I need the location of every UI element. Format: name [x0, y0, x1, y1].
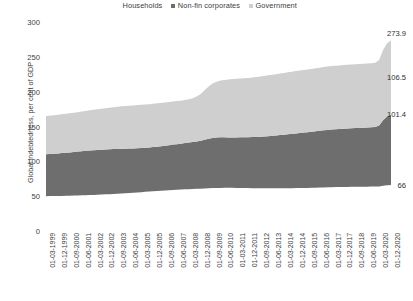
legend-swatch-government	[249, 4, 253, 8]
x-tick-01-03-2017: 01-03-2017	[335, 233, 342, 268]
x-tick-01-12-2014: 01-12-2014	[299, 233, 306, 268]
x-tick-01-09-2006: 01-09-2006	[168, 233, 175, 268]
x-tick-01-03-2005: 01-03-2005	[144, 233, 151, 268]
x-tick-01-03-2011: 01-03-2011	[239, 233, 246, 267]
callout-total: 273.9	[0, 29, 406, 38]
plot-area	[46, 22, 391, 231]
callout-government: 106.5	[0, 73, 406, 82]
x-tick-01-12-2020: 01-12-2020	[394, 233, 401, 268]
x-tick-01-12-1999: 01-12-1999	[61, 233, 68, 268]
x-tick-01-12-2011: 01-12-2011	[251, 233, 258, 267]
y-tick-200: 200	[6, 87, 40, 96]
x-tick-01-06-2013: 01-06-2013	[275, 233, 282, 268]
x-tick-01-03-2008: 01-03-2008	[192, 233, 199, 268]
y-axis-tick-labels: 300250200150100500	[6, 0, 40, 301]
legend-label: Government	[256, 2, 297, 9]
area-series-svg	[46, 22, 391, 231]
x-tick-01-09-2009: 01-09-2009	[216, 233, 223, 268]
x-tick-01-12-2017: 01-12-2017	[346, 233, 353, 268]
callout-non-fin-corporates: 101.4	[0, 110, 406, 119]
x-tick-01-06-2019: 01-06-2019	[370, 233, 377, 268]
y-tick-50: 50	[6, 192, 40, 201]
y-tick-100: 100	[6, 157, 40, 166]
y-tick-250: 250	[6, 52, 40, 61]
x-tick-01-06-2004: 01-06-2004	[132, 233, 139, 268]
callout-households: 66	[0, 181, 406, 190]
x-tick-01-03-1999: 01-03-1999	[49, 233, 56, 268]
legend-item-government[interactable]: Government	[249, 2, 297, 9]
x-tick-01-03-2002: 01-03-2002	[97, 233, 104, 268]
y-tick-0: 0	[6, 227, 40, 236]
legend-swatch-non-fin-corporates	[171, 4, 175, 8]
stacked-area-chart: HouseholdsNon-fin corporatesGovernment G…	[0, 0, 413, 301]
x-tick-01-09-2000: 01-09-2000	[73, 233, 80, 268]
legend-label: Households	[123, 2, 163, 9]
x-tick-01-09-2012: 01-09-2012	[263, 233, 270, 268]
x-tick-01-06-2010: 01-06-2010	[227, 233, 234, 268]
x-tick-01-06-2016: 01-06-2016	[323, 233, 330, 268]
x-tick-01-09-2003: 01-09-2003	[120, 233, 127, 268]
x-tick-01-12-2002: 01-12-2002	[108, 233, 115, 268]
x-tick-01-09-2018: 01-09-2018	[358, 233, 365, 268]
x-tick-01-12-2008: 01-12-2008	[204, 233, 211, 268]
x-tick-01-06-2007: 01-06-2007	[180, 233, 187, 268]
y-tick-300: 300	[6, 18, 40, 27]
x-tick-01-09-2015: 01-09-2015	[311, 233, 318, 268]
legend-label: Non-fin corporates	[178, 2, 240, 9]
chart-legend: HouseholdsNon-fin corporatesGovernment	[0, 2, 413, 9]
x-tick-01-12-2005: 01-12-2005	[156, 233, 163, 268]
x-tick-01-03-2020: 01-03-2020	[382, 233, 389, 268]
x-axis-tick-labels: 01-03-199901-12-199901-09-200001-06-2001…	[46, 233, 391, 301]
x-tick-01-06-2001: 01-06-2001	[85, 233, 92, 268]
legend-item-households[interactable]: Households	[116, 2, 162, 9]
legend-item-non-fin-corporates[interactable]: Non-fin corporates	[171, 2, 240, 9]
x-tick-01-03-2014: 01-03-2014	[287, 233, 294, 268]
y-tick-150: 150	[6, 122, 40, 131]
